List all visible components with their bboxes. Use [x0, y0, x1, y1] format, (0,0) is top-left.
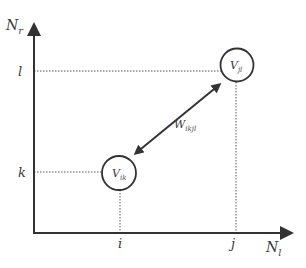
y-axis-arrow-icon	[27, 22, 41, 36]
x-axis-arrow-icon	[280, 226, 294, 240]
tick-label-i: i	[118, 236, 122, 251]
edge-label: Wikjl	[174, 118, 196, 133]
y-axis-label: Nr	[5, 17, 24, 36]
x-axis-label: Nl	[265, 239, 281, 258]
node-vjl: Vjl	[221, 49, 254, 82]
axes	[27, 22, 294, 240]
tick-label-j: j	[228, 236, 235, 251]
tick-label-l: l	[18, 64, 22, 79]
node-vik: Vik	[102, 156, 136, 190]
tick-label-k: k	[18, 165, 26, 180]
node-grid-diagram: Nr Nl l k i j Wikjl Vjl Vik	[0, 0, 306, 268]
